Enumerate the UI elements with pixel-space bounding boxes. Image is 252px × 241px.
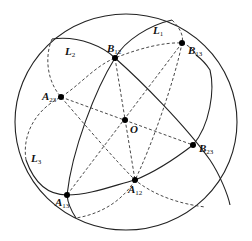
- point-A13: [64, 192, 70, 198]
- label-B23: B23: [198, 142, 214, 156]
- point-A23: [58, 94, 64, 100]
- label-L2: L2: [64, 45, 76, 59]
- label-O: O: [130, 123, 138, 135]
- label-A12: A12: [127, 183, 143, 197]
- label-L3: L3: [30, 152, 42, 166]
- label-B12: B12: [106, 42, 122, 56]
- point-B13: [179, 40, 185, 46]
- great-circle-L3-front: [26, 55, 212, 195]
- point-O: [122, 117, 128, 123]
- sphere-diagram: L1 L2 L3 B12 B13 A23 O B23 A12 A13: [0, 0, 252, 241]
- diagram-svg: L1 L2 L3 B12 B13 A23 O B23 A12 A13: [0, 0, 252, 241]
- label-L1: L1: [152, 24, 164, 38]
- great-circle-L2-front: [52, 38, 230, 205]
- label-A23: A23: [41, 90, 57, 104]
- label-B13: B13: [187, 44, 203, 58]
- point-B23: [190, 142, 196, 148]
